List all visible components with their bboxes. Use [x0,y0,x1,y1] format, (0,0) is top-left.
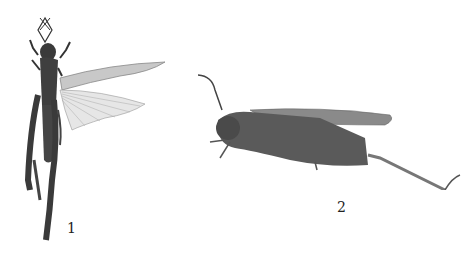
specimen-1-image [0,0,180,250]
specimen-1-label: 1 [67,220,76,236]
figure-canvas: 1 2 [0,0,475,264]
specimen-2-label: 2 [337,199,346,215]
specimen-2-image [190,70,475,190]
